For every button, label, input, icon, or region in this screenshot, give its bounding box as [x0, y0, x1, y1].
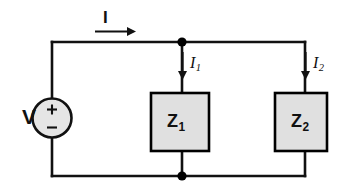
- impedance-label-z2: Z2: [291, 112, 309, 134]
- voltage-source-circle: [33, 99, 72, 138]
- impedance-label-z2-base: Z: [291, 111, 302, 131]
- circuit-schematic-svg: [0, 0, 350, 195]
- current-arrow-I2-head: [301, 71, 310, 80]
- junction-node-bottom: [177, 171, 186, 180]
- impedance-label-z2-subscript: 2: [302, 120, 309, 134]
- current-label-I1-subscript: 1: [195, 62, 201, 73]
- impedance-label-z1: Z1: [167, 112, 185, 134]
- current-arrow-I1-head: [178, 71, 187, 80]
- circuit-diagram-canvas: V I I1 I2 Z1 Z2: [0, 0, 350, 195]
- junction-node-top: [177, 37, 186, 46]
- impedance-label-z1-subscript: 1: [178, 120, 185, 134]
- current-arrow-I-head: [127, 27, 136, 36]
- impedance-label-z1-base: Z: [167, 111, 178, 131]
- current-label-I2-subscript: 2: [318, 62, 324, 73]
- current-label-I2: I2: [313, 55, 324, 74]
- current-label-I1: I1: [190, 55, 201, 74]
- voltage-source-label: V: [22, 106, 36, 127]
- current-label-I: I: [103, 9, 108, 26]
